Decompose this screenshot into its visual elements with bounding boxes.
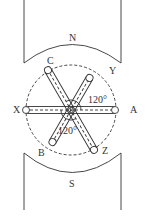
coil-label-y: Y <box>109 65 116 76</box>
south-pole-label: S <box>69 178 75 189</box>
north-pole-label: N <box>69 32 76 43</box>
coil-label-a: A <box>130 104 138 115</box>
coil-label-b: B <box>38 147 45 158</box>
coil-label-c: C <box>47 55 54 66</box>
coil-label-z: Z <box>102 145 108 156</box>
lower-angle-label: 120° <box>58 125 77 136</box>
upper-angle-label: 120° <box>88 94 107 105</box>
coil-label-x: X <box>13 104 21 115</box>
generator-winding-diagram: N S C Y X A B Z 120° 120° <box>0 0 149 221</box>
